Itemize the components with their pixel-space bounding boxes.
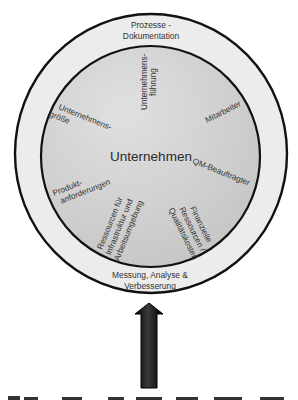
- svg-text:führung: führung: [149, 68, 158, 96]
- ring-label-bottom-1: Messung, Analyse &: [112, 270, 188, 280]
- center-label: Unternehmen: [110, 149, 192, 164]
- ring-label-top-2: Dokumentation: [123, 31, 180, 41]
- up-arrow-icon: [135, 303, 163, 388]
- svg-text:Unternehmens-: Unternehmens-: [140, 53, 149, 110]
- ring-label-top-1: Prozesse -: [131, 20, 171, 30]
- caption-cut-off: [8, 396, 284, 400]
- qm-factors-diagram: Prozesse - Dokumentation Messung, Analys…: [0, 0, 298, 400]
- ring-label-bottom-2: Verbesserung: [124, 281, 176, 291]
